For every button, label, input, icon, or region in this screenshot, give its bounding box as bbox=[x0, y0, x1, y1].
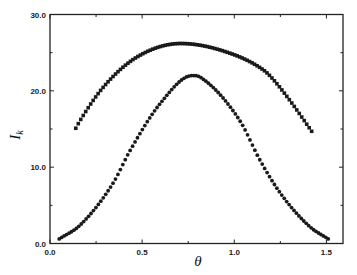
data-point-lower bbox=[275, 186, 279, 190]
data-point-lower bbox=[251, 143, 255, 147]
series-upper bbox=[74, 42, 313, 133]
data-point-upper bbox=[310, 129, 314, 133]
data-point-upper bbox=[86, 106, 90, 110]
data-point-lower bbox=[226, 102, 230, 106]
x-axis-title: θ bbox=[194, 253, 202, 269]
data-point-upper bbox=[81, 114, 85, 118]
data-point-lower bbox=[114, 177, 118, 181]
data-point-lower bbox=[287, 203, 291, 207]
data-point-lower bbox=[136, 136, 140, 140]
data-point-lower bbox=[109, 185, 113, 189]
data-point-upper bbox=[278, 85, 282, 89]
data-point-lower bbox=[221, 96, 225, 100]
data-point-lower bbox=[92, 209, 96, 213]
data-point-lower bbox=[138, 132, 142, 136]
chart: 0.00.51.01.5 0.010.020.030.0 θ Ik bbox=[0, 0, 357, 275]
y-tick-label: 10.0 bbox=[30, 163, 46, 172]
data-point-lower bbox=[96, 203, 100, 207]
data-point-lower bbox=[233, 112, 237, 116]
data-point-lower bbox=[229, 105, 233, 109]
data-point-lower bbox=[94, 206, 98, 210]
data-point-lower bbox=[104, 192, 108, 196]
data-point-lower bbox=[248, 138, 252, 142]
data-point-lower bbox=[158, 102, 162, 106]
y-axis-title: Ik bbox=[7, 130, 25, 141]
data-point-lower bbox=[231, 109, 235, 113]
data-point-upper bbox=[283, 91, 287, 95]
data-point-lower bbox=[263, 166, 267, 170]
x-tick-label: 0.5 bbox=[137, 248, 149, 257]
data-point-lower bbox=[165, 93, 169, 97]
data-point-upper bbox=[297, 112, 301, 116]
data-point-upper bbox=[302, 119, 306, 123]
data-point-lower bbox=[268, 175, 272, 179]
data-point-lower bbox=[121, 163, 125, 167]
y-tick-label: 20.0 bbox=[30, 87, 46, 96]
data-point-lower bbox=[162, 96, 166, 100]
data-point-lower bbox=[285, 200, 289, 204]
data-point-lower bbox=[270, 179, 274, 183]
data-point-lower bbox=[150, 112, 154, 116]
data-point-lower bbox=[260, 162, 264, 166]
data-point-lower bbox=[118, 168, 122, 172]
svg-text:Ik: Ik bbox=[7, 130, 25, 141]
y-tick-label: 30.0 bbox=[30, 11, 46, 20]
data-point-upper bbox=[292, 105, 296, 109]
data-point-lower bbox=[160, 99, 164, 103]
data-point-lower bbox=[99, 199, 103, 203]
data-point-upper bbox=[84, 110, 88, 114]
data-point-upper bbox=[280, 88, 284, 92]
data-point-lower bbox=[277, 190, 281, 194]
data-point-lower bbox=[255, 153, 259, 157]
data-point-lower bbox=[89, 212, 93, 216]
y-axis-title-subscript: k bbox=[14, 130, 25, 135]
data-point-lower bbox=[243, 128, 247, 132]
data-point-upper bbox=[307, 126, 311, 130]
x-tick-label: 1.0 bbox=[229, 248, 241, 257]
data-point-lower bbox=[148, 116, 152, 120]
data-point-upper bbox=[76, 122, 80, 126]
data-point-lower bbox=[153, 109, 157, 113]
data-point-lower bbox=[123, 158, 127, 162]
data-point-upper bbox=[74, 126, 78, 130]
data-point-lower bbox=[126, 153, 130, 157]
data-point-upper bbox=[91, 99, 95, 103]
data-point-lower bbox=[326, 237, 330, 241]
data-point-lower bbox=[236, 116, 240, 120]
data-point-lower bbox=[280, 193, 284, 197]
data-point-lower bbox=[265, 171, 269, 175]
data-point-upper bbox=[96, 92, 100, 96]
y-tick-label: 0.0 bbox=[35, 240, 47, 249]
data-point-lower bbox=[101, 196, 105, 200]
data-point-upper bbox=[285, 95, 289, 99]
data-point-lower bbox=[273, 183, 277, 187]
data-point-lower bbox=[131, 144, 135, 148]
data-point-upper bbox=[305, 122, 309, 126]
data-point-lower bbox=[111, 181, 115, 185]
data-point-lower bbox=[140, 128, 144, 132]
data-point-lower bbox=[106, 189, 110, 193]
data-point-upper bbox=[288, 98, 292, 102]
x-tick-label: 0.0 bbox=[44, 248, 56, 257]
data-point-lower bbox=[128, 149, 132, 153]
data-point-lower bbox=[258, 158, 262, 162]
data-point-upper bbox=[89, 102, 93, 106]
data-point-lower bbox=[133, 140, 137, 144]
data-point-upper bbox=[94, 95, 98, 99]
data-point-lower bbox=[224, 99, 228, 103]
data-point-upper bbox=[300, 115, 304, 119]
data-point-lower bbox=[116, 173, 120, 177]
data-point-lower bbox=[155, 106, 159, 110]
x-tick-label: 1.5 bbox=[321, 248, 333, 257]
x-axis-ticks: 0.00.51.01.5 bbox=[44, 15, 332, 257]
data-point-upper bbox=[290, 101, 294, 105]
data-point-upper bbox=[79, 118, 83, 122]
data-point-lower bbox=[143, 124, 147, 128]
data-point-lower bbox=[290, 206, 294, 210]
data-point-lower bbox=[253, 148, 257, 152]
data-point-lower bbox=[238, 119, 242, 123]
data-point-lower bbox=[241, 123, 245, 127]
data-point-lower bbox=[246, 133, 250, 137]
data-point-lower bbox=[282, 196, 286, 200]
data-point-lower bbox=[145, 120, 149, 124]
